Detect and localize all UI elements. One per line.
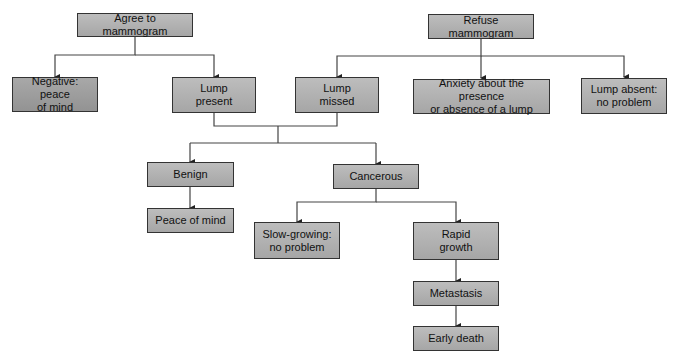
node-peace-of-mind: Peace of mind xyxy=(147,208,234,233)
node-slow-growing: Slow-growing: no problem xyxy=(254,222,340,259)
node-benign: Benign xyxy=(147,162,234,187)
node-refuse-mammogram: Refuse mammogram xyxy=(428,14,534,39)
node-early-death: Early death xyxy=(413,326,499,351)
mammogram-decision-tree: Agree to mammogram Refuse mammogram Nega… xyxy=(0,0,675,360)
node-cancerous: Cancerous xyxy=(333,164,419,189)
node-lump-missed: Lump missed xyxy=(295,77,379,113)
node-agree-to-mammogram: Agree to mammogram xyxy=(77,13,193,37)
node-metastasis: Metastasis xyxy=(413,281,499,306)
node-anxiety: Anxiety about the presence or absence of… xyxy=(413,79,550,114)
node-lump-absent: Lump absent: no problem xyxy=(581,78,667,114)
node-negative-peace-of-mind: Negative: peace of mind xyxy=(12,77,98,112)
node-rapid-growth: Rapid growth xyxy=(413,222,499,260)
node-lump-present: Lump present xyxy=(172,77,256,113)
